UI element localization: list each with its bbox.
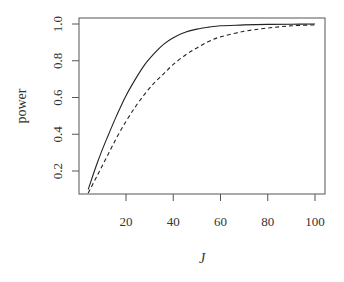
power-curve-chart: 0.20.40.60.81.0 20406080100 power J bbox=[0, 0, 344, 282]
x-tick-label: 80 bbox=[261, 214, 274, 229]
x-tick-label: 20 bbox=[120, 214, 133, 229]
x-tick-label: 60 bbox=[214, 214, 227, 229]
series-line-solid bbox=[88, 24, 315, 189]
data-lines bbox=[88, 24, 315, 193]
y-tick-label: 0.4 bbox=[50, 126, 65, 143]
y-tick-label: 0.8 bbox=[50, 53, 65, 69]
y-tick-label: 0.2 bbox=[50, 163, 65, 179]
y-axis: 0.20.40.60.81.0 bbox=[50, 16, 79, 179]
x-axis: 20406080100 bbox=[120, 194, 325, 229]
y-tick-label: 0.6 bbox=[50, 89, 65, 106]
x-tick-label: 40 bbox=[167, 214, 180, 229]
y-tick-label: 1.0 bbox=[50, 16, 65, 32]
y-axis-label: power bbox=[14, 88, 29, 123]
x-tick-label: 100 bbox=[305, 214, 325, 229]
x-axis-label: J bbox=[199, 251, 206, 266]
series-line-dashed bbox=[88, 25, 315, 193]
